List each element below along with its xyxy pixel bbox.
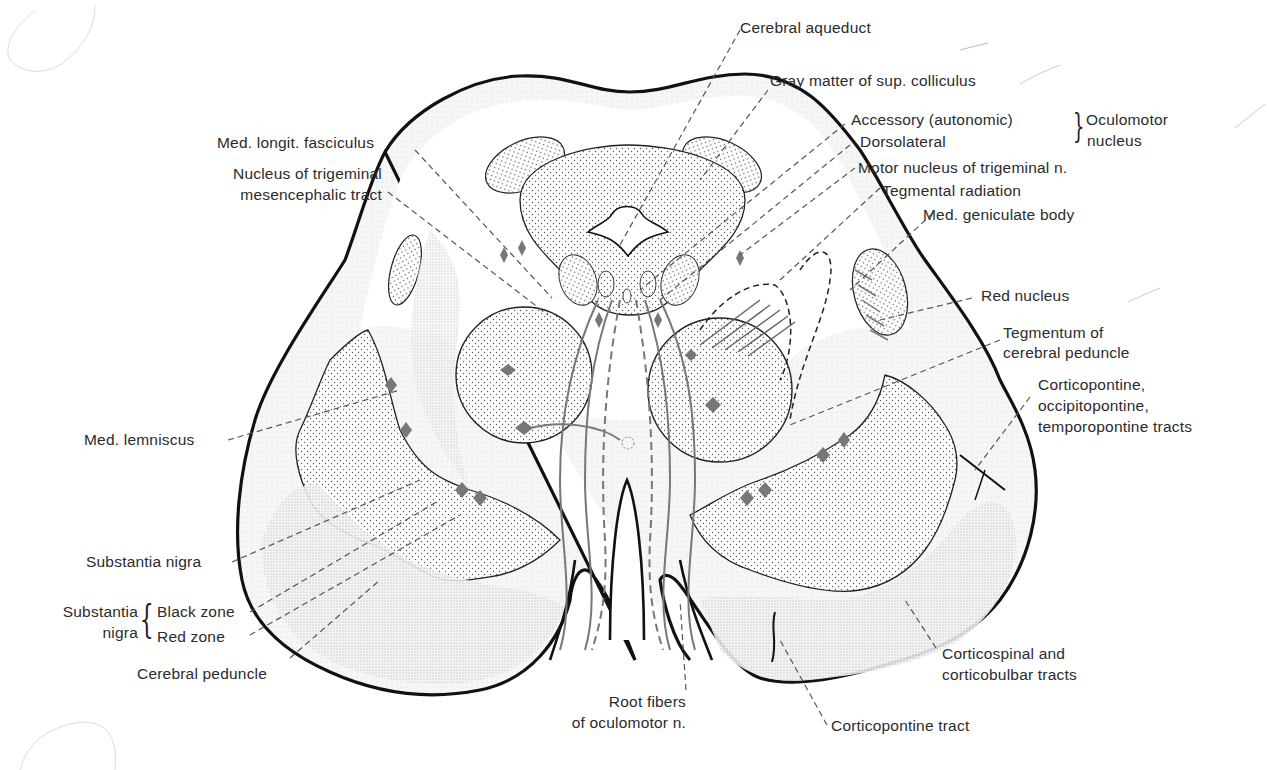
label-substantia-nigra-group-line2: nigra: [20, 623, 138, 642]
label-substantia-nigra: Substantia nigra: [86, 552, 201, 571]
label-oculomotor-line2: nucleus: [1087, 131, 1142, 150]
label-med-longit-fasciculus: Med. longit. fasciculus: [217, 133, 374, 152]
label-oculomotor-line1: Oculomotor: [1086, 110, 1168, 129]
label-accessory-autonomic: Accessory (autonomic): [851, 110, 1013, 129]
label-tegmental-radiation: Tegmental radiation: [882, 181, 1021, 200]
label-tegmentum-line1: Tegmentum of: [1003, 323, 1104, 342]
label-med-lemniscus: Med. lemniscus: [84, 430, 194, 449]
label-black-zone: Black zone: [157, 602, 235, 621]
label-nucleus-trig-mes-line2: mesencephalic tract: [150, 185, 382, 204]
label-red-nucleus: Red nucleus: [981, 286, 1069, 305]
label-nucleus-trig-mes-line1: Nucleus of trigeminal: [150, 164, 382, 183]
label-med-geniculate-body: Med. geniculate body: [923, 205, 1074, 224]
label-corticopontine-line3: temporopontine tracts: [1038, 417, 1192, 436]
label-gray-matter-sup-colliculus: Gray matter of sup. colliculus: [770, 71, 976, 90]
substantia-nigra-brace: {: [140, 598, 154, 638]
label-corticospinal-line1: Corticospinal and: [942, 644, 1065, 663]
label-corticospinal-line2: corticobulbar tracts: [942, 665, 1077, 684]
label-tegmentum-line2: cerebral peduncle: [1003, 343, 1130, 362]
label-corticopontine-tract: Corticopontine tract: [831, 716, 969, 735]
label-dorsolateral: Dorsolateral: [860, 132, 946, 151]
label-corticopontine-line2: occipitopontine,: [1038, 396, 1149, 415]
label-substantia-nigra-group-line1: Substantia: [20, 602, 138, 621]
label-corticopontine-line1: Corticopontine,: [1038, 375, 1145, 394]
label-cerebral-aqueduct: Cerebral aqueduct: [740, 18, 871, 37]
label-root-fibers-line1: Root fibers: [560, 692, 686, 711]
label-red-zone: Red zone: [157, 627, 225, 646]
oculomotor-brace: }: [1073, 108, 1085, 142]
label-motor-nucleus-trigeminal: Motor nucleus of trigeminal n.: [858, 158, 1067, 177]
label-cerebral-peduncle: Cerebral peduncle: [137, 664, 267, 683]
label-root-fibers-line2: of oculomotor n.: [560, 713, 686, 732]
